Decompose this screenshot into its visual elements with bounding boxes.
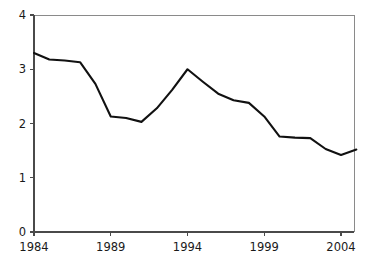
line-chart: 01234 19841989199419992004 [0, 0, 371, 261]
x-tick-label-1999: 1999 [250, 240, 279, 254]
x-axis-ticks [34, 232, 341, 236]
plot-frame [34, 15, 354, 232]
x-tick-label-1994: 1994 [173, 240, 202, 254]
y-axis-tick-labels: 01234 [19, 8, 26, 239]
y-tick-label-2: 2 [19, 117, 26, 131]
x-tick-label-1989: 1989 [96, 240, 125, 254]
y-tick-label-3: 3 [19, 62, 26, 76]
axes [34, 15, 354, 232]
data-series-line [34, 53, 356, 155]
y-tick-label-4: 4 [19, 8, 26, 22]
y-tick-label-1: 1 [19, 171, 26, 185]
y-axis-ticks [30, 15, 34, 232]
x-tick-label-2004: 2004 [326, 240, 355, 254]
y-tick-label-0: 0 [19, 225, 26, 239]
x-tick-label-1984: 1984 [19, 240, 48, 254]
chart-container: 01234 19841989199419992004 [0, 0, 371, 261]
x-axis-tick-labels: 19841989199419992004 [19, 240, 355, 254]
